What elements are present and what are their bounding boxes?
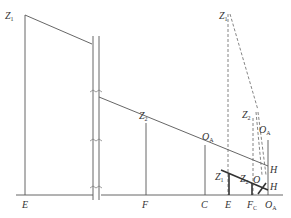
slope-main: [99, 97, 268, 166]
label-e-right: E: [224, 199, 231, 210]
label-z2-mid: Z2: [242, 109, 251, 121]
label-h-lower: H: [269, 181, 278, 192]
dashed-slant-z1: [230, 14, 258, 110]
label-fc: FC: [246, 199, 257, 211]
label-oa-base: OA: [265, 199, 277, 211]
dashed-slant-z2a: [256, 112, 262, 175]
label-z2: Z2: [139, 110, 148, 122]
label-o-low: O: [253, 174, 260, 185]
label-z1: Z1: [5, 10, 14, 22]
break-marks: [90, 90, 102, 188]
label-z1-top: Z1: [219, 10, 228, 22]
label-z1-low: Z1: [215, 171, 224, 183]
label-z2-low: Z2: [240, 173, 249, 185]
label-e-left: E: [21, 199, 28, 210]
label-oa: OA: [202, 131, 214, 143]
label-h-upper: H: [269, 164, 278, 175]
slope-z1: [25, 15, 92, 44]
geometric-diagram: Z1 Z2 OA E F C Z1 Z2 OA H Z1 Z2 O H E FC…: [0, 0, 291, 218]
label-c: C: [201, 199, 208, 210]
label-oa-mid: OA: [259, 124, 271, 136]
label-f: F: [141, 199, 149, 210]
